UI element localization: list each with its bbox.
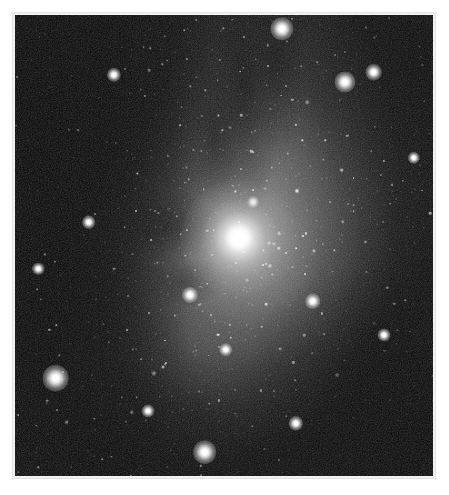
star [410, 161, 411, 162]
star [176, 304, 177, 305]
star [266, 85, 267, 86]
star [130, 475, 132, 476]
star [428, 340, 429, 341]
star [390, 248, 391, 249]
star [107, 141, 108, 142]
bright-star [289, 416, 303, 430]
star [188, 392, 189, 393]
star [401, 180, 403, 182]
bright-star [270, 17, 293, 40]
star [405, 245, 406, 246]
star [335, 396, 336, 397]
star [196, 76, 197, 77]
star [237, 259, 238, 260]
star [169, 282, 170, 283]
central-bright-star [181, 180, 297, 296]
star [432, 348, 433, 349]
star [155, 333, 156, 334]
star [167, 466, 168, 467]
star [174, 144, 175, 145]
star [126, 158, 127, 159]
star [406, 351, 407, 352]
star [224, 322, 225, 323]
bright-star-core [372, 71, 375, 74]
star [228, 324, 230, 326]
star [59, 274, 60, 275]
star [169, 208, 170, 209]
star [103, 323, 104, 324]
star [373, 323, 374, 324]
star [196, 308, 197, 309]
star [220, 132, 222, 134]
star [68, 129, 69, 130]
bright-star [408, 152, 420, 164]
star [353, 205, 354, 206]
star [272, 274, 273, 275]
star [150, 209, 151, 210]
star [196, 350, 197, 351]
star [71, 75, 72, 76]
star [265, 82, 266, 83]
star [35, 29, 36, 30]
star [295, 379, 297, 381]
star [405, 330, 406, 331]
star [232, 368, 233, 369]
star [73, 157, 74, 158]
star [393, 303, 395, 305]
star [247, 96, 248, 97]
star [164, 363, 166, 365]
star [172, 412, 173, 413]
star [125, 421, 126, 422]
star [184, 29, 186, 31]
bright-star-core [189, 293, 192, 296]
star [287, 313, 288, 314]
star [135, 348, 136, 349]
star [237, 270, 238, 271]
star [319, 24, 320, 25]
star [227, 350, 228, 351]
star [408, 274, 409, 275]
dark-sky-vignette [15, 15, 433, 476]
star [306, 470, 307, 471]
star [186, 182, 188, 184]
star [181, 393, 182, 394]
star [323, 159, 324, 160]
star [132, 254, 133, 255]
star [326, 70, 327, 71]
star [373, 323, 375, 325]
star [304, 145, 305, 146]
star [201, 150, 202, 151]
star [151, 371, 156, 376]
star [423, 227, 424, 228]
star [37, 190, 38, 191]
star [108, 332, 109, 333]
star [374, 423, 375, 424]
star [129, 410, 133, 414]
star [346, 310, 347, 311]
star [295, 235, 296, 236]
bright-star [335, 72, 356, 93]
star [279, 232, 280, 233]
star [334, 54, 336, 56]
star [358, 198, 359, 199]
star [261, 277, 262, 278]
star [393, 30, 394, 31]
star [246, 279, 249, 282]
star [288, 268, 289, 269]
star [183, 73, 184, 74]
star [211, 240, 212, 241]
star [263, 187, 266, 190]
star [184, 200, 186, 202]
star [414, 188, 415, 189]
star [284, 33, 285, 34]
star [384, 268, 385, 269]
star [147, 69, 150, 72]
star [272, 389, 275, 392]
star [392, 191, 393, 192]
star [40, 299, 41, 300]
star [56, 409, 58, 411]
star [181, 289, 182, 290]
star [115, 143, 116, 144]
star [174, 454, 175, 455]
star [104, 241, 105, 242]
